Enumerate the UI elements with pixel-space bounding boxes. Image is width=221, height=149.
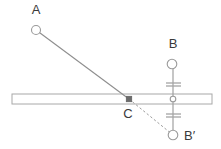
diagram-canvas: A B C B′ — [0, 0, 221, 149]
point-marker-pivot — [170, 96, 176, 102]
horizontal-lever-bar — [12, 94, 212, 104]
point-label-c: C — [123, 106, 132, 121]
point-label-a: A — [32, 2, 41, 17]
point-marker-b-prime — [168, 130, 178, 140]
point-marker-b — [167, 59, 177, 69]
geometry-diagram: A B C B′ — [0, 0, 221, 149]
point-label-b: B — [169, 36, 178, 51]
point-label-b-prime: B′ — [184, 128, 196, 143]
point-marker-a — [32, 26, 41, 35]
segment-a-to-c — [36, 30, 129, 99]
point-marker-c — [126, 96, 131, 101]
